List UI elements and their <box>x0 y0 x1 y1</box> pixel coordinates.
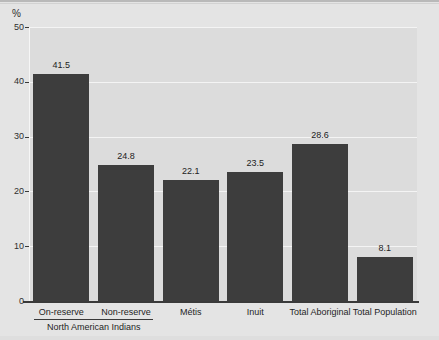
bar <box>292 144 348 301</box>
x-tick-label: Total Population <box>352 307 417 317</box>
bar <box>357 257 413 301</box>
x-tick-label: Non-reserve <box>94 307 159 317</box>
y-tick-mark <box>25 246 29 247</box>
y-tick-mark <box>25 191 29 192</box>
x-tick-label: On-reserve <box>29 307 94 317</box>
x-axis-line <box>23 301 419 303</box>
bar-value-label: 24.8 <box>96 152 156 161</box>
bar <box>98 165 154 301</box>
bar <box>227 172 283 301</box>
y-tick-label: 40 <box>2 77 24 86</box>
y-tick-label: 50 <box>2 23 24 32</box>
bar <box>33 74 89 301</box>
bar-value-label: 8.1 <box>355 244 415 253</box>
bar-value-label: 41.5 <box>31 61 91 70</box>
bottom-rule <box>0 336 439 340</box>
y-tick-mark <box>25 301 29 302</box>
group-bracket-label: North American Indians <box>34 322 153 332</box>
group-bracket-line <box>34 319 153 320</box>
y-tick-label: 30 <box>2 132 24 141</box>
bar-value-label: 23.5 <box>225 159 285 168</box>
x-tick-label: Inuit <box>223 307 288 317</box>
y-tick-label: 20 <box>2 187 24 196</box>
y-tick-label: 10 <box>2 242 24 251</box>
chart-figure: % 01020304050 41.524.822.123.528.68.1 On… <box>0 0 439 340</box>
x-tick-label: Métis <box>158 307 223 317</box>
bar-value-label: 22.1 <box>161 167 221 176</box>
x-tick-label: Total Aboriginal <box>288 307 353 317</box>
top-rule-inner <box>0 3 439 4</box>
y-tick-label: 0 <box>2 297 24 306</box>
bar <box>163 180 219 301</box>
y-tick-mark <box>25 27 29 28</box>
gridline <box>29 27 417 28</box>
top-rule <box>0 0 439 2</box>
y-axis-unit-label: % <box>12 8 21 19</box>
y-axis-line <box>29 27 30 302</box>
y-tick-mark <box>25 82 29 83</box>
y-tick-mark <box>25 137 29 138</box>
bar-value-label: 28.6 <box>290 131 350 140</box>
